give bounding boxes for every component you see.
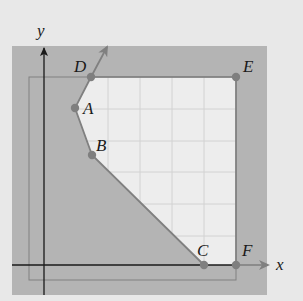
point-a [71,104,79,112]
point-e [232,73,240,81]
point-d [87,73,95,81]
label-f: F [241,241,253,260]
label-a: A [82,99,94,118]
y-axis-label: y [35,21,45,40]
point-f [232,261,240,269]
label-b: B [96,136,107,155]
point-b [88,151,96,159]
label-c: C [197,241,209,260]
feasible-region-diagram: y x A B C D E F [0,0,303,301]
label-e: E [242,57,254,76]
point-c [200,261,208,269]
x-axis-label: x [275,255,284,274]
label-d: D [73,57,87,76]
